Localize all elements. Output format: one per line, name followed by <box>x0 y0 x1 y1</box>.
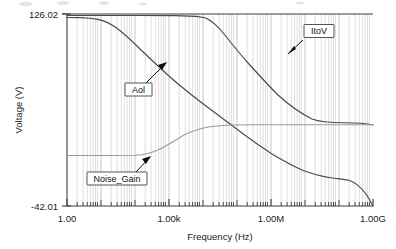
x-axis-ticks <box>67 199 373 206</box>
callout-label-aol: Aol <box>132 85 145 95</box>
callout-label-itov: ItoV <box>311 26 327 36</box>
x-axis-title: Frequency (Hz) <box>187 231 252 242</box>
y-axis-title: Voltage (V) <box>13 87 24 134</box>
callout-noise-gain: Noise_Gain <box>87 156 151 185</box>
callout-label-noise-gain: Noise_Gain <box>93 174 140 184</box>
chart-canvas: ItoV Aol Noise_Gain 126.02 -42.01 Voltag… <box>0 0 396 249</box>
series-curve-noise-gain <box>67 125 373 156</box>
y-axis-min-label: -42.01 <box>31 201 58 212</box>
x-axis-tick-label-0: 1.00 <box>58 213 77 224</box>
x-axis-tick-label-1: 1.00k <box>157 213 180 224</box>
x-axis-tick-label-3: 1.00G <box>360 213 386 224</box>
x-axis-tick-label-2: 1.00M <box>258 213 284 224</box>
scan-artifacts <box>19 1 304 6</box>
bode-plot-figure: ItoV Aol Noise_Gain 126.02 -42.01 Voltag… <box>0 0 396 249</box>
y-axis-max-label: 126.02 <box>29 9 58 20</box>
